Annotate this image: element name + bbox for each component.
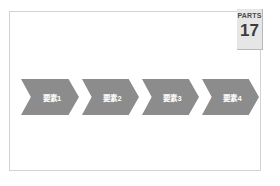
chevron-step-3[interactable]: 要素3 <box>142 79 199 115</box>
chevron-step-2-label: 要素2 <box>103 92 121 103</box>
chevron-step-4[interactable]: 要素4 <box>202 79 259 115</box>
chevron-step-2[interactable]: 要素2 <box>82 79 139 115</box>
chevron-step-3-label: 要素3 <box>163 92 181 103</box>
chevron-step-1[interactable]: 要素1 <box>21 79 79 115</box>
slide-canvas: PARTS 17 要素1 要素2 要素3 要素4 <box>0 0 280 186</box>
chevron-step-1-label: 要素1 <box>43 92 61 103</box>
chevron-process-diagram: 要素1 要素2 要素3 要素4 <box>21 79 259 115</box>
parts-badge: PARTS 17 <box>237 9 263 50</box>
parts-badge-word: PARTS <box>237 12 261 20</box>
parts-badge-number: 17 <box>240 21 259 40</box>
chevron-step-4-label: 要素4 <box>223 92 241 103</box>
